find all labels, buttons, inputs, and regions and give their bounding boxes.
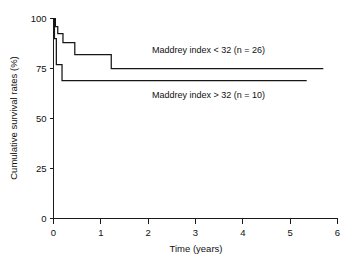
x-tick-labels: 0123456 bbox=[51, 227, 340, 238]
y-tick-label: 0 bbox=[41, 213, 46, 224]
x-tick-label: 5 bbox=[288, 227, 293, 238]
x-tick-marks bbox=[54, 219, 338, 224]
x-tick-label: 1 bbox=[98, 227, 103, 238]
x-tick-label: 2 bbox=[146, 227, 151, 238]
y-axis-group: 0255075100 bbox=[31, 13, 54, 224]
y-tick-label: 75 bbox=[36, 63, 47, 74]
y-tick-label: 25 bbox=[36, 163, 47, 174]
survival-chart-figure: 0255075100 0123456 Maddrey index < 32 (n… bbox=[0, 0, 348, 266]
y-axis-title: Cumulative survival rates (%) bbox=[8, 56, 19, 180]
chart-canvas: 0255075100 0123456 Maddrey index < 32 (n… bbox=[0, 0, 348, 266]
y-tick-label: 100 bbox=[31, 13, 47, 24]
x-tick-label: 3 bbox=[193, 227, 198, 238]
x-tick-label: 0 bbox=[51, 227, 56, 238]
x-tick-label: 4 bbox=[240, 227, 245, 238]
annotation-high-maddrey: Maddrey index > 32 (n = 10) bbox=[152, 90, 265, 100]
y-tick-labels: 0255075100 bbox=[31, 13, 47, 224]
x-axis-title: Time (years) bbox=[170, 243, 223, 254]
series-annotations: Maddrey index < 32 (n = 26) Maddrey inde… bbox=[152, 45, 265, 100]
annotation-low-maddrey: Maddrey index < 32 (n = 26) bbox=[152, 45, 265, 55]
y-tick-marks bbox=[50, 19, 54, 219]
x-tick-label: 6 bbox=[335, 227, 340, 238]
x-axis-group: 0123456 bbox=[51, 219, 340, 238]
survival-curve-low-maddrey bbox=[54, 19, 324, 69]
y-tick-label: 50 bbox=[36, 113, 47, 124]
